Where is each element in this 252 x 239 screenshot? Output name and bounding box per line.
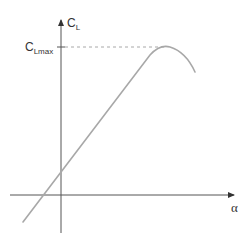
clmax-label: CLmax [25,40,53,56]
y-axis-label: CL [67,16,81,32]
x-axis-label: α [231,200,238,215]
lift-curve-diagram: CL CLmax α [0,0,252,239]
lift-curve [23,46,195,222]
